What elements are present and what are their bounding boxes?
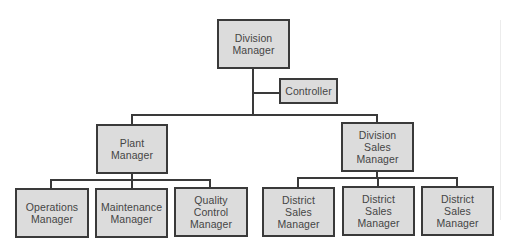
- node-district-sales-manager-1: District Sales Manager: [262, 187, 335, 237]
- node-division-manager: Division Manager: [217, 19, 290, 69]
- node-plant-manager: Plant Manager: [96, 124, 168, 174]
- connector-main-horizontal: [131, 114, 378, 116]
- node-operations-manager: Operations Manager: [15, 188, 89, 238]
- connector-root-down: [252, 67, 254, 115]
- node-controller: Controller: [279, 78, 338, 104]
- node-district-sales-manager-2: District Sales Manager: [342, 186, 415, 236]
- connector-controller: [253, 92, 280, 94]
- node-quality-control-manager: Quality Control Manager: [174, 187, 248, 237]
- scan-artifact-line: [500, 20, 501, 220]
- node-maintenance-manager: Maintenance Manager: [95, 188, 168, 238]
- node-division-sales-manager: Division Sales Manager: [341, 122, 414, 172]
- node-district-sales-manager-3: District Sales Manager: [421, 186, 494, 236]
